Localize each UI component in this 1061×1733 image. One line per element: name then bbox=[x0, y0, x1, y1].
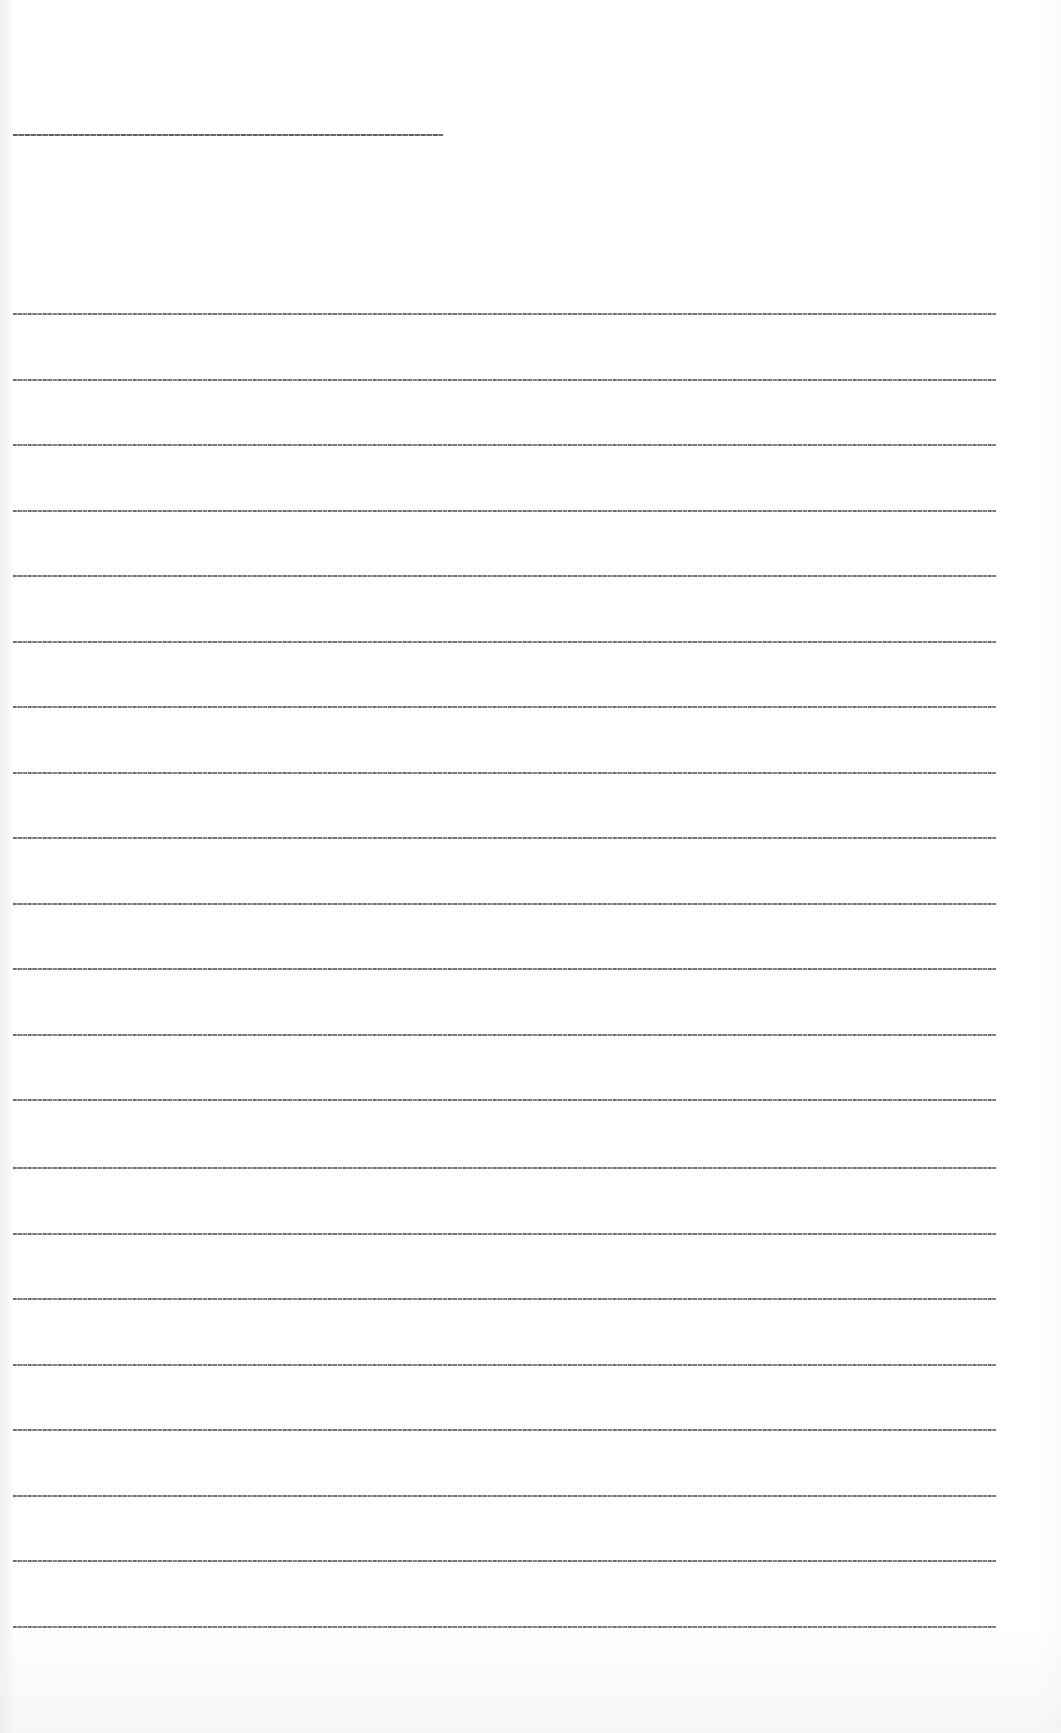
text-line: [illegible text line 9] bbox=[13, 837, 996, 840]
line-text: [illegible text line 16] bbox=[13, 1298, 996, 1300]
document-title-line: [illegible title text] bbox=[13, 134, 443, 137]
document-page: [illegible title text] [illegible text l… bbox=[0, 0, 1061, 1733]
line-text: [illegible text line 10] bbox=[13, 903, 996, 905]
line-text: [illegible text line 14] bbox=[13, 1167, 996, 1169]
text-line: [illegible text line 19] bbox=[13, 1495, 996, 1498]
line-text: [illegible text line 11] bbox=[13, 968, 996, 970]
text-line: [illegible text line 3] bbox=[13, 444, 996, 447]
text-line: [illegible text line 18] bbox=[13, 1429, 996, 1432]
line-text: [illegible text line 9] bbox=[13, 837, 996, 839]
line-text: [illegible text line 18] bbox=[13, 1429, 996, 1431]
title-text: [illegible title text] bbox=[13, 134, 443, 136]
line-text: [illegible text line 3] bbox=[13, 444, 996, 446]
line-text: [illegible text line 8] bbox=[13, 772, 996, 774]
line-text: [illegible text line 20] bbox=[13, 1560, 996, 1562]
line-text: [illegible text line 2] bbox=[13, 379, 996, 381]
text-line: [illegible text line 5] bbox=[13, 575, 996, 578]
line-text: [illegible text line 19] bbox=[13, 1495, 996, 1497]
line-text: [illegible text line 17] bbox=[13, 1364, 996, 1366]
text-line: [illegible text line 8] bbox=[13, 772, 996, 775]
text-line: [illegible text line 15] bbox=[13, 1233, 996, 1236]
line-text: [illegible text line 5] bbox=[13, 575, 996, 577]
text-line: [illegible text line 7] bbox=[13, 706, 996, 709]
text-line: [illegible text line 11] bbox=[13, 968, 996, 971]
text-line: [illegible text line 14] bbox=[13, 1167, 996, 1170]
text-line: [illegible text line 20] bbox=[13, 1560, 996, 1563]
line-text: [illegible text line 15] bbox=[13, 1233, 996, 1235]
text-line: [illegible text line 16] bbox=[13, 1298, 996, 1301]
line-text: [illegible text line 4] bbox=[13, 510, 996, 512]
text-line: [illegible text line 6] bbox=[13, 641, 996, 644]
text-line: [illegible text line 10] bbox=[13, 903, 996, 906]
text-line: [illegible text line 12] bbox=[13, 1034, 996, 1037]
line-text: [illegible text line 1] bbox=[13, 313, 996, 315]
line-text: [illegible text line 7] bbox=[13, 706, 996, 708]
text-line: [illegible text line 2] bbox=[13, 379, 996, 382]
scan-shading bbox=[0, 1623, 1061, 1733]
text-line: [illegible text line 4] bbox=[13, 510, 996, 513]
text-line: [illegible text line 1] bbox=[13, 313, 996, 316]
line-text: [illegible text line 12] bbox=[13, 1034, 996, 1036]
line-text: [illegible text line 6] bbox=[13, 641, 996, 643]
text-line: [illegible text line 13] bbox=[13, 1099, 996, 1102]
text-line: [illegible text line 17] bbox=[13, 1364, 996, 1367]
line-text: [illegible text line 13] bbox=[13, 1099, 996, 1101]
